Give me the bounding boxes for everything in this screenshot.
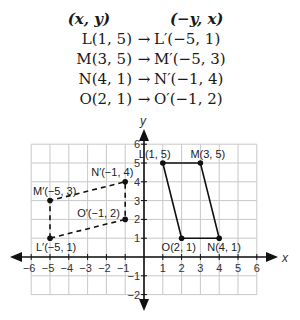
y-tick-label: 1: [134, 232, 140, 244]
y-tick-label: −1: [127, 270, 140, 282]
y-tick-label: 4: [134, 176, 140, 188]
point-label: O′(−1, 2): [77, 207, 120, 219]
point-label: L′(−5, 1): [36, 241, 76, 253]
y-tick-label: 3: [134, 195, 140, 207]
x-axis-label: x: [281, 251, 289, 265]
x-tick-label: −3: [79, 262, 92, 274]
x-axis-left-arrow-icon: [10, 252, 22, 262]
vertex-point: [216, 235, 222, 241]
x-tick-label: 5: [235, 262, 241, 274]
point-label: N′(−1, 4): [91, 166, 133, 178]
x-tick-label: 1: [160, 262, 166, 274]
vertex-point: [47, 235, 53, 241]
point-label: M′(−5, 3): [33, 185, 76, 197]
point-label: L(1, 5): [139, 148, 171, 160]
vertex-point: [179, 235, 185, 241]
coordinate-plane: xy −6−5−4−3−2−1123456−2−1123456 L(1, 5)M…: [0, 0, 300, 320]
x-tick-label: 6: [254, 262, 260, 274]
y-tick-label: −2: [127, 289, 140, 301]
axes: xy: [10, 114, 289, 311]
vertex-point: [122, 217, 128, 223]
y-axis-up-arrow-icon: [139, 129, 149, 141]
x-tick-label: 3: [197, 262, 203, 274]
point-label: N(4, 1): [207, 241, 241, 253]
x-tick-label: −4: [61, 262, 74, 274]
y-axis-label: y: [139, 114, 147, 128]
x-axis-right-arrow-icon: [266, 252, 278, 262]
vertex-point: [122, 179, 128, 185]
x-tick-label: −5: [42, 262, 55, 274]
x-tick-label: 4: [216, 262, 222, 274]
vertex-point: [160, 160, 166, 166]
x-tick-label: −6: [23, 262, 36, 274]
point-label: M(3, 5): [190, 148, 225, 160]
y-tick-label: 2: [134, 213, 140, 225]
vertex-point: [47, 198, 53, 204]
x-tick-label: 2: [179, 262, 185, 274]
point-label: O(2, 1): [162, 241, 196, 253]
x-tick-label: −2: [98, 262, 111, 274]
y-axis-down-arrow-icon: [139, 299, 149, 311]
vertex-point: [198, 160, 204, 166]
